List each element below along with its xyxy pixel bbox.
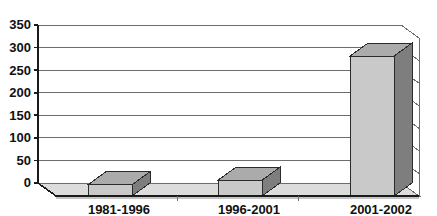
y-tick-label-250: 250 xyxy=(9,63,31,78)
chart-canvas: 0501001502002503003501981-19961996-20012… xyxy=(0,0,437,216)
y-tick-label-350: 350 xyxy=(9,17,31,32)
side-wall-top-edge xyxy=(401,25,419,38)
y-tick-label-0: 0 xyxy=(24,175,31,190)
x-tick-labels: 1981-19961996-20012001-2002 xyxy=(88,202,412,216)
plot-back-wall xyxy=(38,25,401,183)
bar-2001-2002[interactable] xyxy=(350,43,412,196)
y-tick-label-150: 150 xyxy=(9,108,31,123)
x-tick-label-1: 1996-2001 xyxy=(218,202,280,216)
y-tick-label-200: 200 xyxy=(9,85,31,100)
bar-front-face-2 xyxy=(350,56,394,196)
y-tick-labels: 050100150200250300350 xyxy=(9,17,31,190)
y-tick-label-100: 100 xyxy=(9,130,31,145)
bar-chart: 0501001502002503003501981-19961996-20012… xyxy=(0,0,437,216)
x-tick-label-0: 1981-1996 xyxy=(88,202,150,216)
y-tick-label-300: 300 xyxy=(9,40,31,55)
bar-front-face-0 xyxy=(88,185,132,196)
y-tick-label-50: 50 xyxy=(17,153,31,168)
bar-front-face-1 xyxy=(218,180,262,196)
x-tick-label-2: 2001-2002 xyxy=(350,202,412,216)
bar-side-face-2 xyxy=(394,43,412,196)
